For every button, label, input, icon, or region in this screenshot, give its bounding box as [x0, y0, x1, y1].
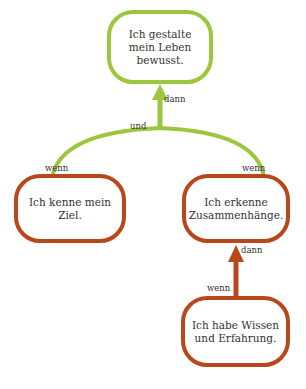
- node-left: Ich kenne mein Ziel.: [14, 174, 126, 243]
- label-right-wenn: wenn: [242, 163, 265, 173]
- label-und: und: [130, 121, 146, 131]
- node-bottom: Ich habe Wissen und Erfahrung.: [181, 296, 290, 367]
- label-right-dann: dann: [241, 245, 262, 255]
- node-left-text: Ich kenne mein Ziel.: [24, 196, 116, 222]
- label-left-wenn: wenn: [45, 163, 68, 173]
- label-top-dann: dann: [164, 94, 185, 104]
- node-top-text: Ich gestalte mein Leben bewusst.: [117, 28, 203, 67]
- und-arc: [52, 128, 264, 178]
- label-bottom-wenn: wenn: [207, 283, 230, 293]
- node-top: Ich gestalte mein Leben bewusst.: [107, 10, 213, 84]
- node-right-text: Ich erkenne Zusammenhänge.: [189, 196, 284, 222]
- node-bottom-text: Ich habe Wissen und Erfahrung.: [191, 319, 280, 345]
- node-right: Ich erkenne Zusammenhänge.: [182, 174, 290, 243]
